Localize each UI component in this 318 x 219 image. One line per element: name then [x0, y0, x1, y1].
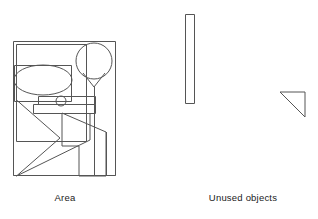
- circle-large-shape: [76, 43, 112, 79]
- unused-right-triangle: [280, 92, 305, 117]
- area-panel-group: [14, 42, 116, 177]
- diagram-canvas: Area Unused objects: [0, 0, 318, 219]
- outer-frame-rect: [14, 42, 116, 176]
- area-caption: Area: [0, 192, 130, 203]
- ellipse-shape: [14, 65, 72, 95]
- unused-tall-rectangle: [186, 15, 195, 104]
- zigzag-arrow-upper-polyline: [17, 100, 61, 176]
- unused-objects-group: [186, 15, 306, 118]
- chevron-block-polygon: [62, 113, 106, 176]
- diagram-svg: [0, 0, 318, 219]
- unused-objects-caption: Unused objects: [178, 192, 308, 203]
